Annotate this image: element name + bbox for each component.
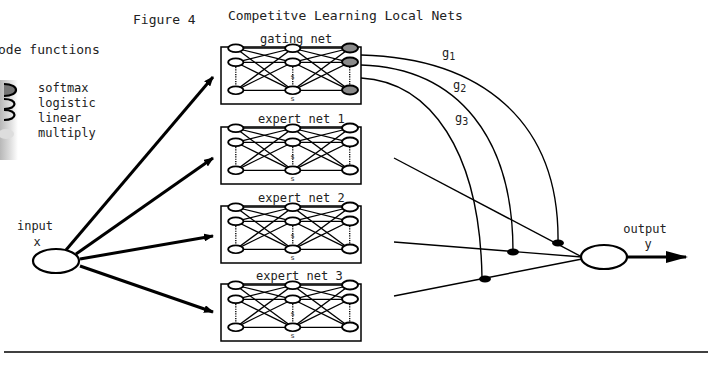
- output-node: [581, 245, 627, 269]
- expert-net-1-box: [221, 124, 361, 185]
- legend-icons: [0, 84, 16, 139]
- gate-label-g2: g2: [453, 78, 466, 94]
- gating-net-box: [221, 44, 361, 105]
- legend-item-softmax: softmax: [38, 81, 89, 95]
- legend-item-logistic: logistic: [38, 96, 96, 110]
- output-var: y: [642, 237, 654, 251]
- figure-label: Figure 4: [133, 12, 196, 27]
- input-node: [33, 249, 79, 273]
- output-label: output: [620, 222, 670, 236]
- expert-net-3-label: expert net 3: [256, 269, 343, 283]
- legend-item-multiply: multiply: [38, 126, 96, 140]
- expert-net-3-box: [221, 281, 361, 342]
- figure-title: Competitve Learning Local Nets: [228, 8, 463, 23]
- gating-net-label: gating net: [260, 32, 332, 46]
- input-arrows: [66, 77, 213, 312]
- input-label: input: [14, 219, 56, 233]
- expert-net-2-label: expert net 2: [258, 191, 345, 205]
- legend-title: ode functions: [0, 42, 100, 57]
- gate-label-g3: g3: [455, 111, 468, 127]
- mixture-of-experts-diagram: s s: [0, 0, 712, 367]
- expert-net-1-label: expert net 1: [258, 112, 345, 126]
- gate-label-g1: g1: [442, 46, 455, 62]
- input-var: x: [30, 235, 44, 249]
- expert-net-2-box: [221, 203, 361, 264]
- expert-output-lines: [394, 158, 582, 296]
- legend-item-linear: linear: [38, 111, 81, 125]
